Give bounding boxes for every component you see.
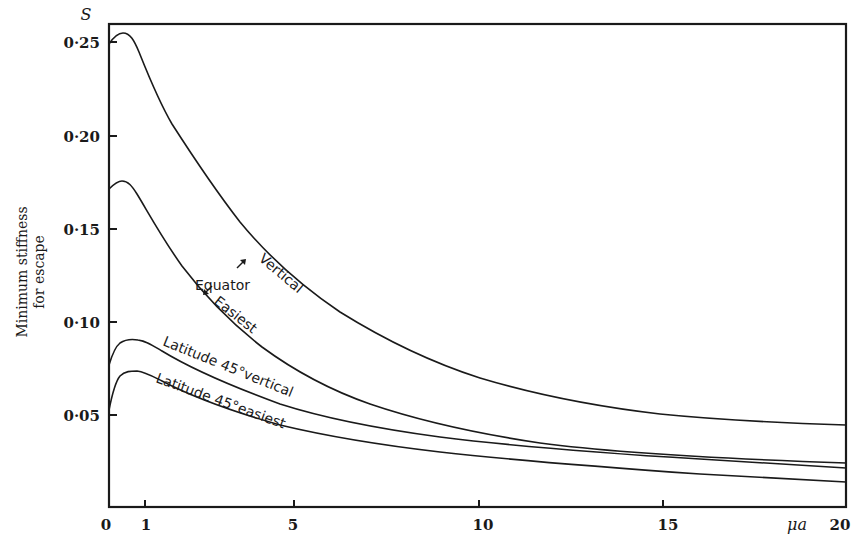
x-tick-label: 5 (288, 516, 298, 534)
y-axis-title-line2: for escape (31, 235, 47, 309)
plot-frame (109, 24, 846, 507)
y-axis-symbol: S (81, 5, 92, 24)
label-equator: Equator (195, 277, 250, 293)
x-tick-label: 1 (141, 516, 151, 534)
label-vertical: Vertical (256, 250, 306, 296)
curves (109, 33, 846, 482)
x-tick-label: 20 (830, 516, 851, 534)
y-tick-label: 0·20 (63, 128, 100, 146)
y-tick-label: 0·15 (63, 221, 100, 239)
curve-lat45-easiest (109, 371, 846, 482)
stiffness-chart: 0·25 0·20 0·15 0·10 0·05 S Minimum stiff… (0, 0, 857, 539)
x-axis-symbol: μa (787, 515, 807, 534)
x-tick-label: 15 (658, 516, 679, 534)
x-axis: 0 1 5 10 15 20 μa (101, 500, 851, 534)
y-axis-title-line1: Minimum stiffness (14, 206, 30, 337)
y-tick-label: 0·10 (63, 314, 100, 332)
y-axis: 0·25 0·20 0·15 0·10 0·05 S Minimum stiff… (14, 5, 117, 425)
x-tick-label: 0 (101, 516, 111, 534)
label-easiest: Easiest (211, 293, 261, 337)
arrow-up-right-icon (237, 259, 246, 268)
y-axis-title: Minimum stiffness for escape (14, 206, 47, 337)
y-tick-label: 0·25 (63, 34, 100, 52)
x-tick-label: 10 (473, 516, 494, 534)
y-tick-label: 0·05 (63, 407, 100, 425)
